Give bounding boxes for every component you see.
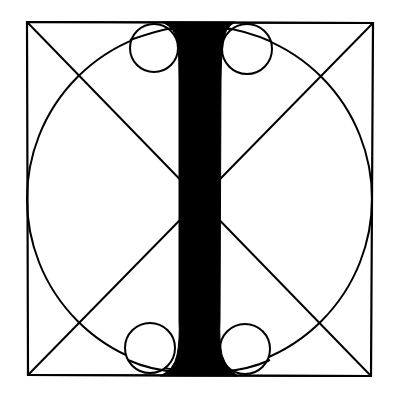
diagram-canvas: Geometric construction of the letter I — [0, 0, 396, 403]
letter-i-stem — [160, 22, 238, 376]
serif-circle-bottom-left — [125, 323, 175, 373]
serif-circle-top-right — [222, 24, 272, 74]
frame-top-edge — [27, 22, 373, 23]
serif-circle-top-left — [130, 24, 178, 72]
frame-bottom-edge — [28, 375, 371, 376]
letter-i-construction — [0, 0, 396, 403]
